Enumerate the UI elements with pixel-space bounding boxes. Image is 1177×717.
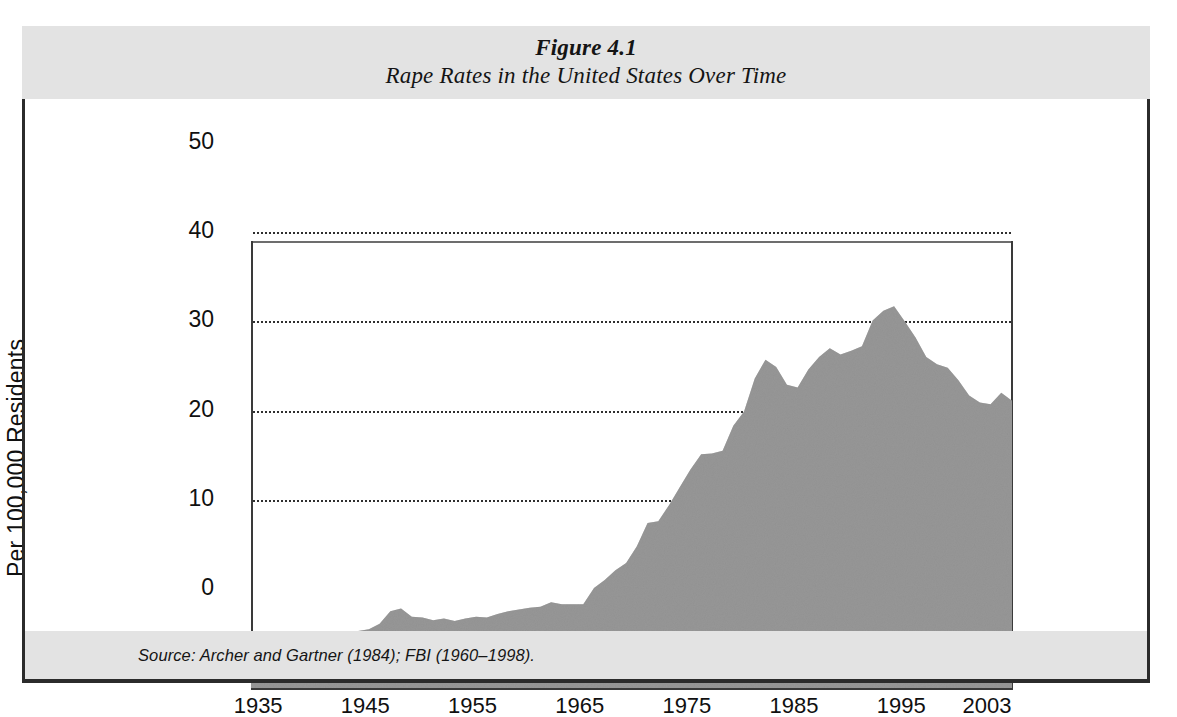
- x-axis-line: [251, 688, 1013, 690]
- y-tick-value: 40: [188, 217, 214, 244]
- y-axis-title: Per 100,000 Residents: [1, 238, 31, 678]
- figure-title: Rape Rates in the United States Over Tim…: [385, 62, 786, 90]
- gridline-40: [253, 232, 1011, 234]
- source-note: Source: Archer and Gartner (1984); FBI (…: [138, 646, 535, 665]
- x-tick-label: 1975: [662, 693, 711, 717]
- y-tick-value: 30: [188, 306, 214, 333]
- y-tick-value: 0: [201, 574, 214, 601]
- x-tick-label: 1965: [555, 693, 604, 717]
- x-tick-label: 2003: [963, 693, 1012, 717]
- figure-title-band: Figure 4.1 Rape Rates in the United Stat…: [22, 26, 1150, 99]
- x-tick-label: 1985: [770, 693, 819, 717]
- y-tick-value: 20: [188, 396, 214, 423]
- frame-bottom-border: [22, 679, 1150, 683]
- y-tick-value: 50: [188, 128, 214, 155]
- frame-left-border: [22, 99, 25, 682]
- chart-region: Per 100,000 Residents 01020304050: [25, 99, 1147, 631]
- frame-right-border: [1147, 99, 1150, 682]
- x-tick-label: 1935: [234, 693, 283, 717]
- x-tick-label: 1995: [877, 693, 926, 717]
- y-tick-value: 10: [188, 485, 214, 512]
- x-tick-label: 1955: [448, 693, 497, 717]
- x-tick-label: 1945: [341, 693, 390, 717]
- area-series: [251, 242, 1012, 688]
- figure-number: Figure 4.1: [535, 35, 637, 61]
- source-band: Source: Archer and Gartner (1984); FBI (…: [25, 631, 1147, 679]
